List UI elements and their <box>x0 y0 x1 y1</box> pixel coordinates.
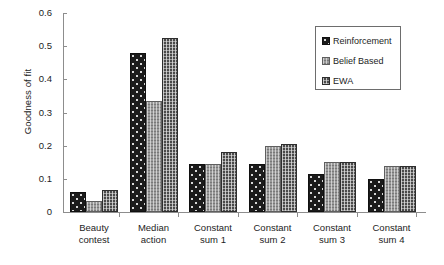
bar-chart: Goodness of fit 00.10.20.30.40.50.6 Beau… <box>0 0 444 265</box>
bar <box>324 162 340 212</box>
y-axis-tick-label: 0.1 <box>39 173 52 184</box>
y-axis-tick: 0.1 <box>0 179 63 180</box>
legend-item: Belief Based <box>322 55 384 66</box>
y-axis-tick-mark <box>63 79 67 80</box>
legend-swatch-icon <box>322 77 330 85</box>
y-axis-title: Goodness of fit <box>22 42 33 162</box>
bar <box>102 190 118 212</box>
y-axis-tick-label: 0 <box>47 206 52 217</box>
bar <box>265 146 281 212</box>
bar <box>189 164 205 212</box>
y-axis-tick: 0 <box>0 212 63 213</box>
y-axis-tick-label: 0.6 <box>39 7 52 18</box>
y-axis-tick: 0.2 <box>0 146 63 147</box>
y-axis-tick-mark <box>63 46 67 47</box>
bar-group-bars <box>189 14 237 212</box>
bar <box>162 38 178 212</box>
bar <box>340 162 356 212</box>
legend-swatch-icon <box>322 37 330 45</box>
x-axis-label-line: sum 4 <box>347 234 437 246</box>
x-axis-line <box>63 212 426 213</box>
x-axis-tick-mark <box>357 213 358 217</box>
legend-swatch-icon <box>322 57 330 65</box>
y-axis-tick-mark <box>63 212 67 213</box>
x-axis-tick-mark <box>416 213 417 217</box>
x-axis-tick-mark <box>238 213 239 217</box>
bar <box>130 53 146 212</box>
y-axis-tick-mark <box>63 146 67 147</box>
bar <box>368 179 384 212</box>
y-axis-tick: 0.5 <box>0 46 63 47</box>
legend-item: EWA <box>322 75 353 86</box>
bar <box>249 164 265 212</box>
y-axis-tick-label: 0.4 <box>39 73 52 84</box>
bar <box>281 144 297 212</box>
legend-item: Reinforcement <box>322 35 392 46</box>
y-axis-tick: 0.6 <box>0 13 63 14</box>
bar <box>146 101 162 212</box>
legend-label: Belief Based <box>333 56 384 66</box>
x-axis-tick-mark <box>119 213 120 217</box>
y-axis-tick-mark <box>63 13 67 14</box>
bar <box>384 166 400 212</box>
bar-group-bars <box>70 14 118 212</box>
bar-group-bars <box>249 14 297 212</box>
y-axis-tick: 0.4 <box>0 79 63 80</box>
bar <box>400 166 416 212</box>
y-axis-tick-label: 0.3 <box>39 107 52 118</box>
x-axis-tick-mark <box>178 213 179 217</box>
y-axis-tick-label: 0.5 <box>39 40 52 51</box>
bar <box>70 192 86 212</box>
legend-label: EWA <box>333 76 353 86</box>
bar <box>86 201 102 212</box>
x-axis-label: Constantsum 4 <box>347 222 437 245</box>
bar <box>221 152 237 212</box>
chart-legend: ReinforcementBelief BasedEWA <box>315 26 401 90</box>
bar-group-bars <box>130 14 178 212</box>
bar <box>205 164 221 212</box>
x-axis-label-line: Constant <box>347 222 437 234</box>
y-axis-tick-mark <box>63 179 67 180</box>
y-axis-tick: 0.3 <box>0 113 63 114</box>
y-axis-tick-mark <box>63 113 67 114</box>
bar <box>308 174 324 212</box>
y-axis-tick-label: 0.2 <box>39 140 52 151</box>
legend-label: Reinforcement <box>333 36 392 46</box>
x-axis-tick-mark <box>297 213 298 217</box>
